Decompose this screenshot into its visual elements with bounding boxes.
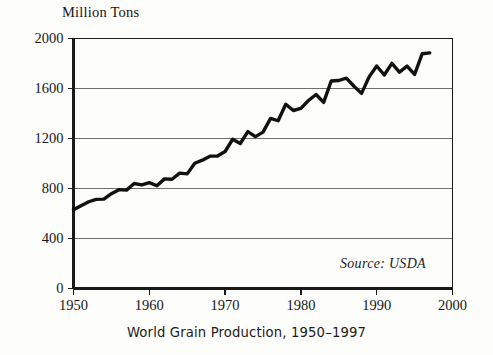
y-tick-400: 400 — [18, 230, 64, 247]
figure-caption: World Grain Production, 1950–1997 — [0, 325, 493, 340]
chart-figure: Million Tons 0400800120016002000 1950196… — [0, 0, 493, 355]
y-tick-0: 0 — [18, 280, 64, 297]
source-note: Source: USDA — [340, 256, 426, 272]
y-tick-1200: 1200 — [18, 130, 64, 147]
axis-lines-group — [74, 39, 453, 289]
y-tick-800: 800 — [18, 180, 64, 197]
x-tick-1990: 1990 — [347, 297, 407, 314]
y-tick-2000: 2000 — [18, 30, 64, 47]
x-tick-1960: 1960 — [119, 297, 179, 314]
x-tick-1950: 1950 — [44, 297, 104, 314]
y-tick-1600: 1600 — [18, 80, 64, 97]
x-tick-2000: 2000 — [423, 297, 483, 314]
x-tick-1970: 1970 — [195, 297, 255, 314]
data-line-series — [74, 53, 430, 210]
x-tick-1980: 1980 — [271, 297, 331, 314]
